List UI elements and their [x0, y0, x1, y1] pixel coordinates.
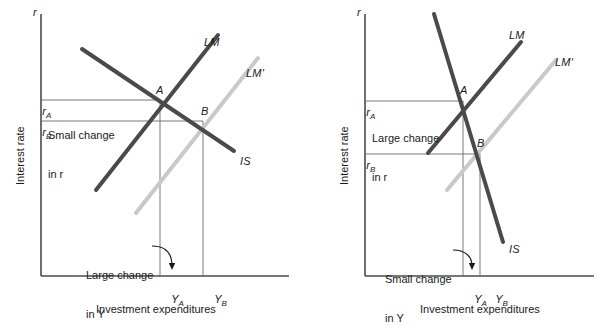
curve-label-lm-prime: LM' — [246, 67, 264, 80]
annotation-change-y-line1: Small change — [385, 273, 452, 286]
point-label-a: A — [156, 84, 163, 97]
curve-label-lm-prime: LM' — [555, 56, 573, 69]
point-label-b: B — [477, 137, 484, 150]
change-y-arrow-head — [469, 263, 475, 270]
x-tick-YA: YA — [153, 280, 184, 321]
x-tick-YB: YB — [196, 280, 227, 321]
y-axis-symbol: r — [33, 6, 37, 19]
curve-label-lm: LM — [204, 36, 220, 49]
panel-left: r Interest rate Investment expenditures … — [0, 0, 298, 321]
panel-right: r Interest rate Investment expenditures … — [297, 0, 595, 321]
y-axis-symbol: r — [357, 6, 361, 19]
point-label-b: B — [201, 105, 208, 118]
curve-is — [434, 14, 503, 242]
x-tick-YA-sub: A — [178, 299, 183, 308]
annotation-change-r: Small change in r — [48, 103, 115, 207]
change-y-arrow-head — [169, 263, 175, 270]
annotation-change-r-line2: in r — [372, 171, 439, 184]
annotation-change-r: Large change in r — [372, 106, 439, 210]
curve-label-is: IS — [509, 243, 520, 256]
curve-label-is: IS — [240, 155, 251, 168]
x-tick-YB-sub: B — [502, 299, 507, 308]
annotation-change-r-line1: Large change — [372, 132, 439, 145]
curve-lm — [428, 42, 521, 153]
annotation-change-y-line2: in Y — [86, 308, 153, 321]
x-tick-YB: YB — [477, 280, 508, 321]
annotation-change-y-line2: in Y — [385, 312, 452, 325]
annotation-change-r-line2: in r — [48, 168, 115, 181]
curve-label-lm: LM — [509, 29, 525, 42]
x-tick-YB-sub: B — [221, 299, 226, 308]
curve-lm-prime — [136, 58, 258, 213]
annotation-change-y: Small change in Y — [385, 247, 452, 326]
annotation-change-y: Large change in Y — [86, 243, 153, 326]
annotation-change-y-line1: Large change — [86, 269, 153, 282]
annotation-change-r-line1: Small change — [48, 129, 115, 142]
point-label-a: A — [460, 84, 467, 97]
